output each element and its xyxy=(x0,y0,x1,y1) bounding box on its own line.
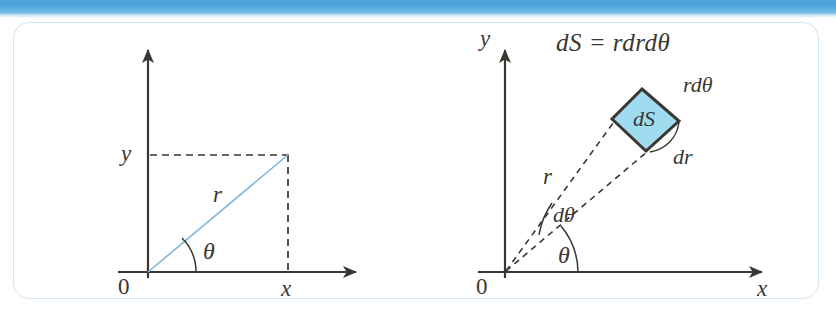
right-dtheta-arc xyxy=(539,203,552,235)
right-radius-label: r xyxy=(543,165,552,188)
left-y-axis-label: y xyxy=(121,142,131,165)
left-radius-label: r xyxy=(213,183,222,206)
right-diagram-group xyxy=(478,50,762,278)
right-dashed-ray-lower xyxy=(506,151,648,271)
rdtheta-label: rdθ xyxy=(683,74,713,96)
dS-formula: dS = rdrdθ xyxy=(556,30,670,55)
figure-root: 0 x y r θ dS = rdrdθ 0 x y r dθ θ dS rdθ… xyxy=(0,0,836,317)
dS-area-label: dS xyxy=(633,108,655,130)
left-origin-label: 0 xyxy=(118,275,130,298)
left-radius-line xyxy=(148,154,289,272)
left-x-axis-label: x xyxy=(281,277,291,300)
right-theta-label: θ xyxy=(558,243,570,267)
left-theta-label: θ xyxy=(203,239,215,263)
right-y-axis-label: y xyxy=(480,27,490,50)
right-origin-label: 0 xyxy=(476,275,488,298)
right-x-axis-label: x xyxy=(757,277,767,300)
right-dtheta-label: dθ xyxy=(553,204,575,226)
dr-label: dr xyxy=(673,146,693,168)
left-theta-arc xyxy=(182,238,196,272)
left-diagram-group xyxy=(118,50,356,278)
